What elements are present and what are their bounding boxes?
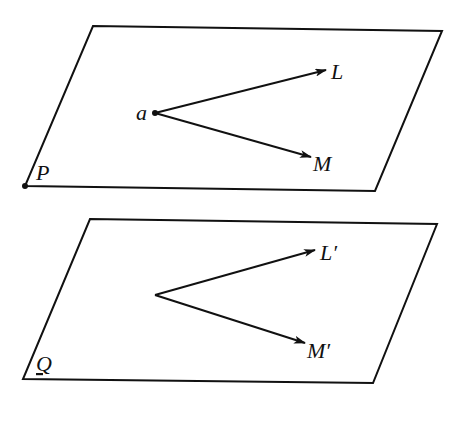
vector-m-prime-label: M′ xyxy=(306,338,331,363)
vectors-plane-q: L′ M′ xyxy=(155,240,338,363)
vector-l xyxy=(155,70,326,113)
plane-p-corner-dot xyxy=(22,183,28,189)
vector-l-prime xyxy=(155,250,315,295)
vector-m xyxy=(155,113,311,157)
plane-q: Q xyxy=(23,219,437,383)
vectors-plane-p: a L M xyxy=(136,59,343,176)
vector-m-label: M xyxy=(312,151,333,176)
plane-p: P xyxy=(22,26,442,191)
plane-q-label: Q xyxy=(36,351,52,376)
vector-m-prime xyxy=(155,295,305,343)
vector-l-label: L xyxy=(330,59,343,84)
plane-p-label: P xyxy=(35,160,49,185)
vector-l-prime-label: L′ xyxy=(319,240,338,265)
parallel-planes-diagram: P a L M Q L′ M′ xyxy=(0,0,464,423)
point-a-label: a xyxy=(136,100,147,125)
